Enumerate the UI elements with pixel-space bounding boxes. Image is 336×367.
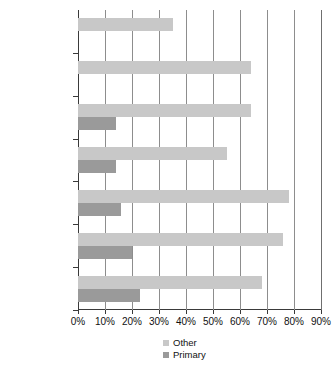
bar-other	[78, 104, 251, 117]
bar-primary	[78, 246, 132, 259]
category-group	[78, 139, 321, 182]
gridline	[321, 10, 322, 310]
x-axis-tick	[294, 310, 295, 314]
legend-item-other: Other	[163, 337, 206, 349]
x-axis-tick-label: 90%	[306, 316, 336, 327]
legend-swatch-primary-icon	[163, 352, 169, 358]
bar-primary	[78, 203, 121, 216]
legend-item-primary: Primary	[163, 349, 206, 361]
x-axis-tick-label: 50%	[198, 316, 228, 327]
bar-other	[78, 61, 251, 74]
x-axis-tick-label: 30%	[144, 316, 174, 327]
category-group	[78, 96, 321, 139]
x-axis-tick	[78, 310, 79, 314]
bar-other	[78, 18, 173, 31]
bar-other	[78, 233, 283, 246]
x-axis-tick	[159, 310, 160, 314]
category-group	[78, 10, 321, 53]
x-axis-tick	[105, 310, 106, 314]
x-axis-tick-label: 40%	[171, 316, 201, 327]
bar-other	[78, 190, 289, 203]
x-axis-tick-label: 80%	[279, 316, 309, 327]
bar-primary	[78, 117, 116, 130]
x-axis-tick-label: 10%	[90, 316, 120, 327]
category-group	[78, 53, 321, 96]
bar-other	[78, 276, 262, 289]
x-axis-tick-label: 70%	[252, 316, 282, 327]
x-axis-tick-label: 20%	[117, 316, 147, 327]
x-axis-tick	[186, 310, 187, 314]
x-axis-tick	[132, 310, 133, 314]
x-axis-tick	[240, 310, 241, 314]
legend-label-other: Other	[173, 337, 197, 349]
x-axis-tick	[213, 310, 214, 314]
bar-primary	[78, 289, 140, 302]
category-group	[78, 181, 321, 224]
x-axis-tick-label: 0%	[63, 316, 93, 327]
category-group	[78, 224, 321, 267]
bar-other	[78, 147, 227, 160]
legend-swatch-other-icon	[163, 340, 169, 346]
category-group	[78, 267, 321, 310]
bar-primary	[78, 160, 116, 173]
legend-label-primary: Primary	[173, 349, 206, 361]
x-axis-tick	[267, 310, 268, 314]
x-axis-tick-label: 60%	[225, 316, 255, 327]
chart-legend: Other Primary	[163, 337, 206, 361]
x-axis: 0%10%20%30%40%50%60%70%80%90%	[78, 310, 321, 315]
x-axis-tick	[321, 310, 322, 314]
